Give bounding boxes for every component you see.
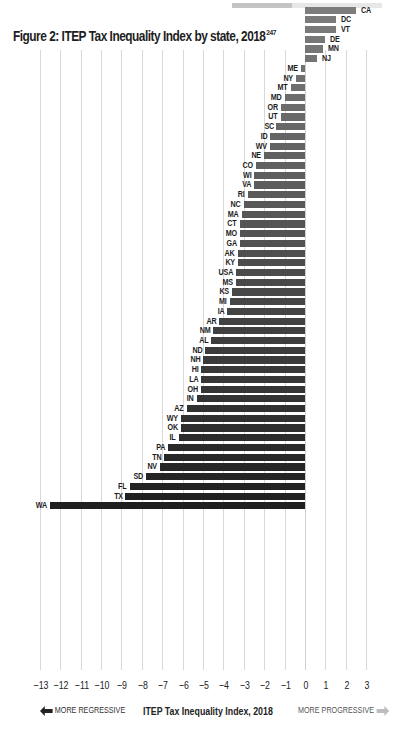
bar-ne	[264, 152, 305, 159]
x-axis-title: ITEP Tax Inequality Index, 2018	[143, 705, 273, 717]
bar-sc	[276, 123, 305, 130]
bar-vt	[305, 26, 336, 33]
bar-label: WV	[256, 142, 267, 151]
gridline	[366, 50, 367, 670]
bar-label: HI	[191, 365, 198, 374]
bar-label: CA	[361, 6, 371, 15]
bar-label: NJ	[322, 54, 331, 63]
x-tick-label: 3	[358, 679, 377, 691]
bar-wi	[254, 172, 305, 179]
bar-label: KS	[219, 287, 229, 296]
bar-nc	[244, 201, 305, 208]
x-tick-label: −6	[174, 679, 193, 691]
bar-label: LA	[189, 375, 198, 384]
bar-label: DC	[341, 15, 351, 24]
bar-label: MO	[226, 229, 237, 238]
bar-label: UT	[268, 112, 277, 121]
bar-az	[187, 405, 305, 412]
bar-label: AZ	[175, 404, 184, 413]
bar-il	[179, 434, 305, 441]
bar-ca	[305, 7, 356, 14]
bar-fl	[130, 483, 305, 490]
bar-label: SC	[264, 122, 274, 131]
bar-chart: −13−12−11−10−9−8−7−6−5−4−3−2−10123CADCVT…	[0, 0, 396, 741]
x-tick-label: −11	[72, 679, 91, 691]
bar-nh	[203, 356, 305, 363]
bar-label: PA	[156, 443, 165, 452]
bar-mt	[291, 84, 305, 91]
gridline	[346, 50, 347, 670]
bar-label: CO	[243, 161, 253, 170]
bar-md	[285, 94, 305, 101]
bar-al	[211, 337, 305, 344]
x-tick-label: 1	[317, 679, 336, 691]
bar-ks	[232, 288, 305, 295]
x-tick-label: −9	[113, 679, 132, 691]
bar-label: NY	[283, 74, 293, 83]
arrow-left-icon	[40, 706, 53, 716]
gridline	[325, 50, 326, 670]
bar-or	[281, 104, 305, 111]
bar-pa	[168, 444, 305, 451]
bar-ak	[238, 250, 305, 257]
x-tick-label: −1	[276, 679, 295, 691]
bar-label: GA	[226, 239, 236, 248]
x-tick-label: −12	[52, 679, 71, 691]
bar-in	[197, 395, 305, 402]
bar-ar	[219, 318, 305, 325]
bar-oh	[201, 386, 305, 393]
bar-label: OH	[188, 385, 198, 394]
bar-ct	[240, 220, 305, 227]
bar-label: ME	[288, 64, 298, 73]
bar-tx	[125, 493, 305, 500]
bar-nv	[160, 463, 305, 470]
bar-hi	[201, 366, 305, 373]
bar-label: FL	[118, 482, 126, 491]
gridline	[183, 50, 184, 670]
bar-label: VT	[341, 25, 350, 34]
bar-va	[254, 181, 305, 188]
bar-label: IA	[218, 307, 225, 316]
bar-ut	[281, 113, 305, 120]
x-tick-label: −3	[235, 679, 254, 691]
gridline	[142, 50, 143, 670]
x-tick-label: −5	[194, 679, 213, 691]
bar-label: NV	[148, 462, 158, 471]
bar-label: NE	[252, 151, 262, 160]
bar-label: OR	[267, 103, 277, 112]
gridline	[121, 50, 122, 670]
bar-label: TX	[114, 492, 123, 501]
gridline	[162, 50, 163, 670]
arrow-right-icon	[376, 706, 389, 716]
bar-dc	[305, 16, 336, 23]
bar-nm	[213, 327, 305, 334]
bar-label: AR	[206, 317, 216, 326]
more-progressive-label: MORE PROGRESSIVE	[298, 705, 389, 716]
bar-id	[270, 133, 305, 140]
x-tick-label: −8	[133, 679, 152, 691]
bar-label: DE	[330, 35, 340, 44]
bar-ky	[238, 259, 305, 266]
gridline	[40, 50, 41, 670]
bar-label: TN	[152, 453, 161, 462]
bar-ms	[236, 279, 305, 286]
bar-ia	[227, 308, 305, 315]
bar-tn	[164, 454, 305, 461]
bar-label: AK	[225, 249, 235, 258]
bar-label: RI	[238, 190, 245, 199]
bar-label: MA	[228, 210, 239, 219]
bar-ga	[240, 240, 305, 247]
bar-label: ID	[261, 132, 268, 141]
bar-co	[256, 162, 305, 169]
bar-ri	[248, 191, 305, 198]
gridline	[101, 50, 102, 670]
bar-label: WI	[243, 171, 251, 180]
x-tick-label: 0	[296, 679, 315, 691]
bar-nj	[305, 55, 317, 62]
x-tick-label: −13	[31, 679, 50, 691]
bar-mo	[240, 230, 305, 237]
bar-label: SD	[133, 472, 143, 481]
gridline	[305, 50, 306, 670]
x-tick-label: −10	[92, 679, 111, 691]
bar-label: IL	[170, 433, 176, 442]
